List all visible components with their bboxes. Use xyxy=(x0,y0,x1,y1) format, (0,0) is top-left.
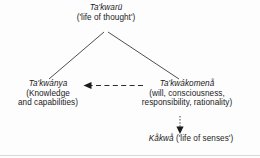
node-kakwa: Kåkwå ('life of senses') xyxy=(128,134,254,144)
node-takwakomena-gloss-line2: responsibility, rationality) xyxy=(118,98,256,108)
node-kakwa-term: Kåkwå xyxy=(149,134,174,143)
node-takwanya-term: Ta'kwánya xyxy=(2,79,94,89)
concept-diagram: Ta'kwarü ('life of thought') Ta'kwánya (… xyxy=(0,0,260,158)
node-takwakomena: Ta'kwákomenå (will, consciousness, respo… xyxy=(118,79,256,108)
node-takwanya-gloss-line2: and capabilities) xyxy=(2,98,94,108)
edge-root-to-left xyxy=(49,32,104,79)
node-takwaru-term: Ta'kwarü xyxy=(60,3,152,13)
edge-root-to-right xyxy=(108,32,179,79)
node-takwaru: Ta'kwarü ('life of thought') xyxy=(60,3,152,22)
node-takwakomena-gloss-line1: (will, consciousness, xyxy=(118,89,256,99)
node-takwanya: Ta'kwánya (Knowledge and capabilities) xyxy=(2,79,94,108)
arrowhead-down-icon xyxy=(176,127,183,135)
node-takwakomena-term: Ta'kwákomenå xyxy=(118,79,256,89)
node-kakwa-gloss: ('life of senses') xyxy=(174,134,234,143)
node-takwanya-gloss-line1: (Knowledge xyxy=(2,89,94,99)
node-takwaru-gloss: ('life of thought') xyxy=(60,13,152,23)
